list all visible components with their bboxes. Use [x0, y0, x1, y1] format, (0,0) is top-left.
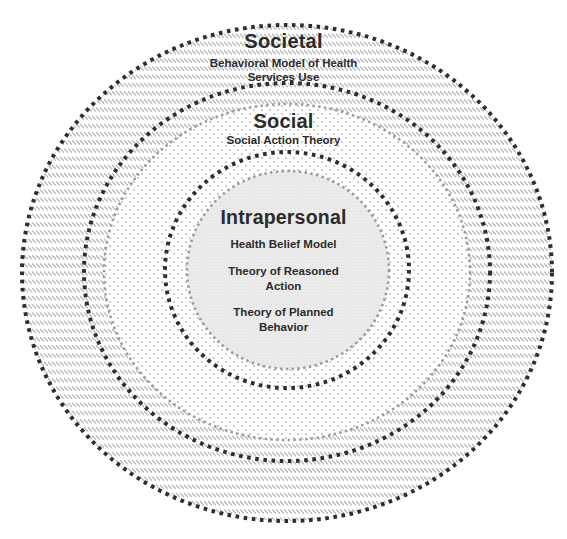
social-title: Social — [0, 111, 567, 131]
societal-theory-line-2: Services Use — [0, 70, 567, 84]
theory-health-belief-model: Health Belief Model — [0, 237, 567, 252]
societal-title: Societal — [0, 31, 567, 51]
social-theory: Social Action Theory — [0, 135, 567, 147]
theory-line: Health Belief Model — [0, 237, 567, 252]
theory-planned-behavior: Theory of Planned Behavior — [0, 305, 567, 335]
theory-line: Theory of Reasoned — [0, 264, 567, 279]
theory-reasoned-action: Theory of Reasoned Action — [0, 264, 567, 294]
societal-theory-line-1: Behavioral Model of Health — [0, 56, 567, 70]
theory-line: Theory of Planned — [0, 305, 567, 320]
societal-theory: Behavioral Model of Health Services Use — [0, 56, 567, 84]
theory-line: Behavior — [0, 320, 567, 335]
theory-line: Action — [0, 279, 567, 294]
intrapersonal-title: Intrapersonal — [0, 208, 567, 228]
